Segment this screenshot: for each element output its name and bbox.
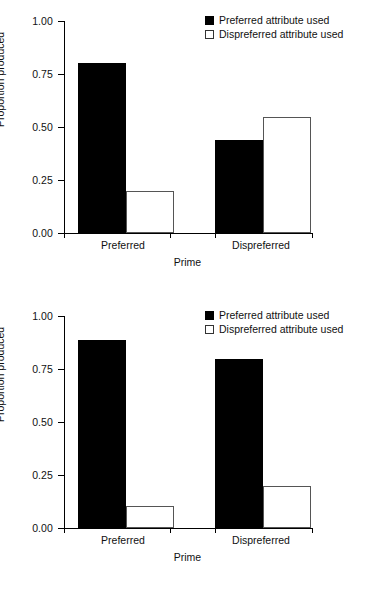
legend-top: Preferred attribute used Dispreferred at… <box>205 13 343 41</box>
y-tick-label: 0.00 <box>32 227 53 239</box>
y-axis-tick <box>58 74 64 75</box>
y-axis-title-bottom: Proportion produced <box>0 327 6 422</box>
y-tick-label: 0.00 <box>32 522 53 534</box>
legend-label-dispreferred-top: Dispreferred attribute used <box>219 27 343 41</box>
y-tick-label: 1.00 <box>32 310 53 322</box>
x-axis-tick <box>170 528 171 533</box>
y-axis-tick <box>58 21 64 22</box>
x-axis-tick <box>312 528 313 533</box>
chart-panel-top: Proportion produced 0.000.250.500.751.00… <box>0 0 375 295</box>
x-axis-title-bottom: Prime <box>0 551 375 563</box>
chart-panel-bottom: Proportion produced 0.000.250.500.751.00… <box>0 295 375 590</box>
x-tick-label-preferred-top: Preferred <box>101 239 145 251</box>
bar-dispreferred-open <box>263 117 311 233</box>
legend-swatch-filled-icon <box>205 311 214 320</box>
y-axis-tick <box>58 369 64 370</box>
legend-item-dispreferred-top: Dispreferred attribute used <box>205 27 343 41</box>
x-axis-tick <box>64 233 65 238</box>
bar-preferred-open <box>126 191 174 233</box>
legend-swatch-filled-icon <box>205 16 214 25</box>
y-axis-tick <box>58 475 64 476</box>
y-tick-label: 0.50 <box>32 416 53 428</box>
legend-label-preferred-top: Preferred attribute used <box>219 13 329 27</box>
x-axis-tick <box>64 528 65 533</box>
legend-item-preferred-bottom: Preferred attribute used <box>205 308 343 322</box>
y-axis-tick <box>58 180 64 181</box>
x-tick-label-dispreferred-top: Dispreferred <box>232 239 290 251</box>
y-tick-label: 0.25 <box>32 469 53 481</box>
legend-swatch-open-icon <box>205 30 214 39</box>
x-axis-tick <box>215 528 216 533</box>
x-axis-tick <box>312 233 313 238</box>
x-axis-tick <box>170 233 171 238</box>
y-axis-title-top: Proportion produced <box>0 32 6 127</box>
bar-preferred-filled <box>78 340 126 528</box>
x-axis-tick <box>215 233 216 238</box>
bar-dispreferred-open <box>263 486 311 528</box>
y-axis-tick <box>58 422 64 423</box>
figure-container: Proportion produced 0.000.250.500.751.00… <box>0 0 375 590</box>
y-tick-label: 0.25 <box>32 174 53 186</box>
x-axis-line-bottom <box>64 528 313 529</box>
y-axis-line-bottom <box>64 316 65 528</box>
y-tick-label: 0.75 <box>32 68 53 80</box>
y-axis-tick <box>58 316 64 317</box>
y-axis-tick <box>58 127 64 128</box>
bar-preferred-open <box>126 506 174 528</box>
y-axis-line-top <box>64 21 65 233</box>
legend-item-preferred-top: Preferred attribute used <box>205 13 343 27</box>
legend-label-dispreferred-bottom: Dispreferred attribute used <box>219 322 343 336</box>
y-tick-label: 1.00 <box>32 15 53 27</box>
legend-label-preferred-bottom: Preferred attribute used <box>219 308 329 322</box>
y-tick-label: 0.75 <box>32 363 53 375</box>
legend-item-dispreferred-bottom: Dispreferred attribute used <box>205 322 343 336</box>
y-tick-label: 0.50 <box>32 121 53 133</box>
x-axis-line-top <box>64 233 313 234</box>
legend-swatch-open-icon <box>205 325 214 334</box>
bar-dispreferred-filled <box>215 359 263 528</box>
x-tick-label-dispreferred-bottom: Dispreferred <box>232 534 290 546</box>
x-axis-title-top: Prime <box>0 256 375 268</box>
bar-preferred-filled <box>78 63 126 233</box>
legend-bottom: Preferred attribute used Dispreferred at… <box>205 308 343 336</box>
bar-dispreferred-filled <box>215 140 263 233</box>
x-tick-label-preferred-bottom: Preferred <box>101 534 145 546</box>
